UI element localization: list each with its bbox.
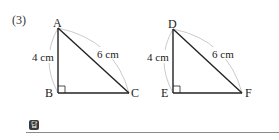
triangle-def: D E F 4 cm 6 cm xyxy=(146,17,252,100)
answer-line[interactable] xyxy=(26,132,279,133)
side-label-ac: 6 cm xyxy=(97,48,119,60)
vertex-label-b: B xyxy=(45,86,53,100)
vertex-label-f: F xyxy=(245,86,252,100)
right-angle-mark-e xyxy=(173,86,180,93)
side-ac xyxy=(58,28,129,93)
congruent-triangles-figure: A B C 4 cm 6 cm D E F 4 cm 6 cm xyxy=(0,0,279,140)
vertex-label-d: D xyxy=(168,17,177,31)
side-label-df: 6 cm xyxy=(212,48,234,60)
right-angle-mark-b xyxy=(58,86,65,93)
side-label-ab: 4 cm xyxy=(32,51,54,63)
side-df xyxy=(173,29,242,93)
side-label-de: 4 cm xyxy=(147,51,169,63)
vertex-label-e: E xyxy=(161,86,168,100)
answer-badge: 답 xyxy=(29,120,39,130)
vertex-label-c: C xyxy=(131,86,139,100)
vertex-label-a: A xyxy=(53,16,62,30)
triangle-abc: A B C 4 cm 6 cm xyxy=(31,16,139,100)
